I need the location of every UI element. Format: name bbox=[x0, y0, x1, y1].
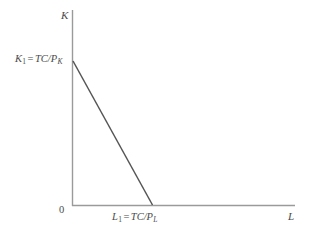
l-axis-label: L bbox=[288, 211, 294, 222]
k-intercept-label: K1=TC/PK bbox=[15, 54, 62, 65]
k-intercept-variable: K bbox=[15, 53, 22, 64]
l-intercept-variable: L bbox=[112, 211, 118, 222]
origin-label: 0 bbox=[59, 205, 64, 216]
l-intercept-equals: = bbox=[122, 211, 131, 222]
k-intercept-numerator: TC bbox=[35, 53, 48, 64]
k-axis-label: K bbox=[61, 10, 68, 21]
l-intercept-numerator: TC bbox=[131, 211, 144, 222]
l-intercept-denominator-subscript: L bbox=[153, 215, 157, 224]
k-intercept-denominator-subscript: K bbox=[57, 57, 62, 66]
isocost-diagram: K L K1=TC/PK L1=TC/PL 0 bbox=[0, 0, 309, 234]
diagram-canvas bbox=[0, 0, 309, 234]
l-intercept-label: L1=TC/PL bbox=[112, 212, 157, 223]
k-intercept-equals: = bbox=[26, 53, 35, 64]
isocost-line bbox=[73, 61, 153, 205]
